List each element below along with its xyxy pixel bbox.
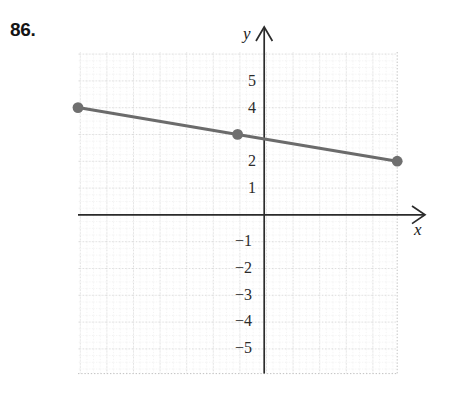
y-axis-label: y bbox=[243, 24, 251, 44]
data-point bbox=[73, 102, 84, 113]
data-point bbox=[392, 156, 403, 167]
y-tick-label-5: 5 bbox=[226, 72, 256, 90]
y-tick-label-neg3: −3 bbox=[222, 286, 252, 304]
y-tick-label-2: 2 bbox=[226, 152, 256, 170]
y-tick-label-neg1: −1 bbox=[222, 232, 252, 250]
x-axis-label: x bbox=[414, 220, 422, 240]
figure-page: 86. bbox=[0, 0, 450, 394]
y-tick-label-4: 4 bbox=[226, 99, 256, 117]
y-tick-label-neg2: −2 bbox=[222, 259, 252, 277]
coordinate-plane-graph bbox=[0, 0, 450, 394]
y-tick-label-neg5: −5 bbox=[222, 339, 252, 357]
data-point bbox=[232, 129, 243, 140]
y-tick-label-neg4: −4 bbox=[222, 312, 252, 330]
y-tick-label-1: 1 bbox=[226, 179, 256, 197]
